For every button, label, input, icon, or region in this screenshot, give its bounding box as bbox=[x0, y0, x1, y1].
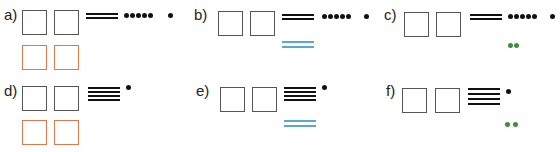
tens-line bbox=[468, 103, 500, 105]
ones-box[interactable] bbox=[252, 87, 277, 112]
answer-green-dot bbox=[513, 122, 518, 127]
tens-box[interactable] bbox=[22, 10, 47, 35]
tens-line bbox=[284, 95, 316, 97]
ones-dot bbox=[346, 14, 351, 19]
ones-dot bbox=[168, 13, 173, 18]
tens-line bbox=[284, 99, 316, 101]
answer-blue-line bbox=[282, 41, 314, 43]
tens-line bbox=[468, 93, 500, 95]
tens-box[interactable] bbox=[220, 87, 245, 112]
ones-dot bbox=[322, 85, 327, 90]
tens-line bbox=[88, 91, 120, 93]
tens-line bbox=[284, 87, 316, 89]
exercise-label: b) bbox=[194, 6, 207, 23]
tens-line bbox=[468, 88, 500, 90]
ones-dot bbox=[334, 14, 339, 19]
tens-line bbox=[86, 13, 118, 15]
tens-line bbox=[86, 17, 118, 19]
tens-box[interactable] bbox=[218, 11, 243, 36]
exercise-label: c) bbox=[384, 6, 397, 23]
exercise-label: e) bbox=[196, 82, 209, 99]
ones-dot bbox=[364, 14, 369, 19]
ones-dot bbox=[526, 14, 531, 19]
exercise-d: d) bbox=[4, 80, 184, 152]
ones-dot bbox=[328, 14, 333, 19]
answer-blue-line bbox=[282, 46, 314, 48]
exercise-f: f) bbox=[386, 80, 560, 152]
tens-box[interactable] bbox=[402, 88, 427, 113]
tens-line bbox=[88, 87, 120, 89]
tens-box[interactable] bbox=[22, 86, 47, 111]
answer-blue-line bbox=[284, 125, 316, 127]
answer-ones-box[interactable] bbox=[54, 45, 79, 70]
ones-dot bbox=[508, 14, 513, 19]
answer-tens-box[interactable] bbox=[22, 120, 47, 145]
ones-dot bbox=[124, 13, 129, 18]
answer-ones-box[interactable] bbox=[54, 120, 79, 145]
ones-box[interactable] bbox=[436, 12, 461, 37]
ones-dot bbox=[550, 14, 555, 19]
answer-green-dot bbox=[508, 43, 513, 48]
ones-dot bbox=[130, 13, 135, 18]
ones-box[interactable] bbox=[54, 86, 79, 111]
ones-dot bbox=[514, 14, 519, 19]
tens-line bbox=[88, 99, 120, 101]
answer-tens-box[interactable] bbox=[22, 45, 47, 70]
answer-green-dot bbox=[505, 122, 510, 127]
tens-line bbox=[470, 14, 502, 16]
ones-box[interactable] bbox=[435, 88, 460, 113]
exercise-b: b) bbox=[194, 4, 374, 76]
ones-dot bbox=[506, 89, 511, 94]
tens-line bbox=[282, 14, 314, 16]
exercise-label: d) bbox=[4, 82, 17, 99]
ones-box[interactable] bbox=[250, 11, 275, 36]
ones-dot bbox=[148, 13, 153, 18]
answer-green-dot bbox=[514, 43, 519, 48]
ones-dot bbox=[142, 13, 147, 18]
ones-box[interactable] bbox=[54, 10, 79, 35]
exercise-e: e) bbox=[196, 80, 376, 152]
exercise-c: c) bbox=[384, 4, 560, 76]
tens-line bbox=[88, 95, 120, 97]
tens-line bbox=[470, 18, 502, 20]
ones-dot bbox=[126, 85, 131, 90]
ones-dot bbox=[520, 14, 525, 19]
ones-dot bbox=[136, 13, 141, 18]
tens-line bbox=[468, 98, 500, 100]
exercise-a: a) bbox=[4, 4, 184, 76]
answer-blue-line bbox=[284, 120, 316, 122]
exercise-label: a) bbox=[4, 6, 17, 23]
tens-line bbox=[284, 91, 316, 93]
tens-box[interactable] bbox=[404, 12, 429, 37]
ones-dot bbox=[532, 14, 537, 19]
ones-dot bbox=[340, 14, 345, 19]
ones-dot bbox=[322, 14, 327, 19]
exercise-label: f) bbox=[386, 82, 395, 99]
tens-line bbox=[282, 18, 314, 20]
